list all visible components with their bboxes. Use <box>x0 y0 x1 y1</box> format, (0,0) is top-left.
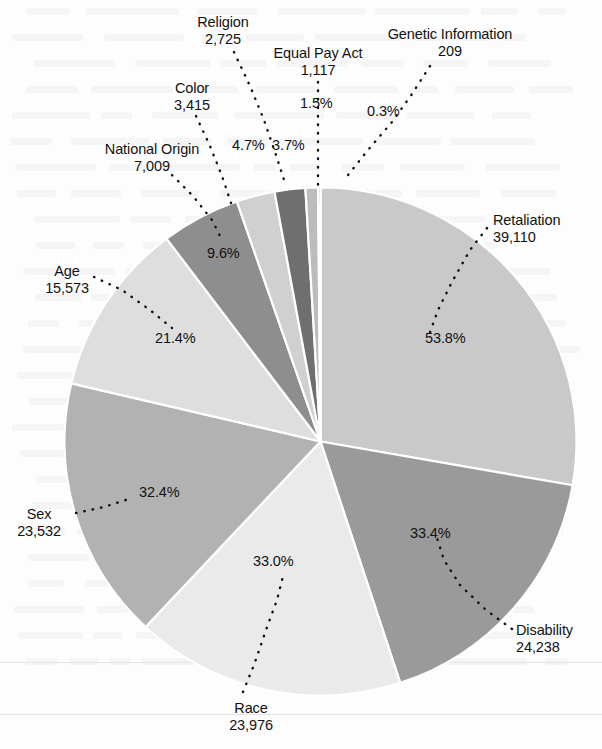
label-race: Race 23,976 <box>205 700 297 734</box>
percent-label-color: 4.7% <box>232 137 265 153</box>
label-race-name: Race <box>205 700 297 717</box>
percent-label-disability: 33.4% <box>410 525 451 541</box>
pie-chart <box>0 0 602 749</box>
label-disability-value: 24,238 <box>516 639 573 656</box>
label-race-value: 23,976 <box>205 717 297 734</box>
label-sex: Sex 23,532 <box>6 506 72 540</box>
label-retaliation: Retaliation 39,110 <box>493 212 560 246</box>
label-equal-pay-act-value: 1,117 <box>259 62 377 79</box>
label-religion-value: 2,725 <box>181 31 265 48</box>
label-sex-name: Sex <box>6 506 72 523</box>
label-age: Age 15,573 <box>28 263 106 297</box>
percent-label-religion: 3.7% <box>272 137 305 153</box>
label-age-value: 15,573 <box>28 280 106 297</box>
label-genetic-information-value: 209 <box>357 43 543 60</box>
label-age-name: Age <box>28 263 106 280</box>
percent-label-equal-pay-act: 1.5% <box>300 95 333 111</box>
label-religion-name: Religion <box>181 14 265 31</box>
percent-label-genetic-information: 0.3% <box>367 103 400 119</box>
label-disability: Disability 24,238 <box>516 622 573 656</box>
percent-label-national-origin: 9.6% <box>207 245 240 261</box>
label-retaliation-value: 39,110 <box>493 229 560 246</box>
label-genetic-information-name: Genetic Information <box>357 26 543 43</box>
pie-slice-group <box>64 187 576 695</box>
label-national-origin-name: National Origin <box>85 141 219 158</box>
label-genetic-information: Genetic Information 209 <box>357 26 543 60</box>
percent-label-age: 21.4% <box>155 330 196 346</box>
percent-label-race: 33.0% <box>253 553 294 569</box>
leader-line-genetic-information <box>344 66 430 180</box>
label-national-origin: National Origin 7,009 <box>85 141 219 175</box>
label-national-origin-value: 7,009 <box>85 158 219 175</box>
label-sex-value: 23,532 <box>6 523 72 540</box>
label-religion: Religion 2,725 <box>181 14 265 48</box>
label-disability-name: Disability <box>516 622 573 639</box>
label-color: Color 3,415 <box>152 80 232 114</box>
percent-label-retaliation: 53.8% <box>425 330 466 346</box>
label-color-name: Color <box>152 80 232 97</box>
label-retaliation-name: Retaliation <box>493 212 560 229</box>
label-color-value: 3,415 <box>152 97 232 114</box>
chart-canvas: 53.8% 33.4% 33.0% 32.4% 21.4% 9.6% 4.7% … <box>0 0 602 749</box>
percent-label-sex: 32.4% <box>139 484 180 500</box>
